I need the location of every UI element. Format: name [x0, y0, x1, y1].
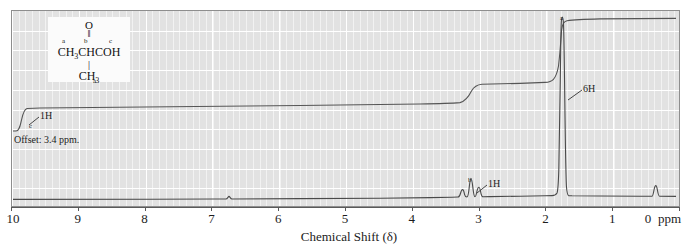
gridline-vertical [212, 11, 213, 206]
x-tick-label: 8 [141, 211, 148, 227]
gridline-vertical [279, 11, 280, 206]
main-chain-part1: CH [58, 45, 75, 59]
x-tick-label: 3 [475, 211, 482, 227]
structural-formula-inset: O ‖ a b c CH3CHCOH | CH3a [48, 17, 130, 82]
methyl-branch-formula: CH3a [48, 70, 130, 85]
gridline-vertical [413, 11, 414, 206]
x-tick-label: 10 [7, 211, 20, 227]
x-tick-label: 1 [609, 211, 616, 227]
gridline-vertical [146, 11, 147, 206]
integration-label-6h: 6H [583, 83, 595, 94]
x-axis-title: Chemical Shift (δ) [0, 229, 698, 245]
x-tick-label: 4 [409, 211, 416, 227]
nmr-spectrum-figure: O ‖ a b c CH3CHCOH | CH3a 1H c Offset: 3… [0, 0, 698, 251]
proton-letter-c: c [109, 38, 112, 45]
gridline-horizontal [12, 110, 679, 111]
gridline-horizontal [12, 188, 679, 189]
gridline-vertical [12, 11, 13, 206]
gridline-vertical [480, 11, 481, 206]
integration-label-1h-b: 1H [488, 178, 500, 189]
main-chain-part2: CHCOH [78, 45, 120, 59]
x-tick-label: 7 [208, 211, 215, 227]
proton-letter-a: a [62, 38, 65, 45]
gridline-horizontal [12, 129, 679, 130]
gridline-horizontal [12, 149, 679, 150]
peak-label-b: b [468, 176, 472, 184]
gridline-vertical [546, 11, 547, 206]
proton-letter-row: a b c [48, 38, 130, 46]
x-tick-label: 0 [645, 211, 652, 227]
x-axis-unit-label: ppm [658, 211, 681, 227]
proton-letter-b: b [84, 38, 88, 45]
gridline-vertical [613, 11, 614, 206]
branch-proton-letter-a: a [93, 78, 96, 85]
x-tick-label: 6 [275, 211, 282, 227]
x-tick-label: 2 [542, 211, 549, 227]
peak-label-c: c [29, 122, 32, 130]
peak-label-a: a [560, 14, 563, 22]
x-tick-label: 5 [342, 211, 349, 227]
gridline-vertical [346, 11, 347, 206]
integration-label-1h-c: 1H [40, 110, 52, 121]
offset-note: Offset: 3.4 ppm. [14, 134, 79, 145]
gridline-vertical [680, 11, 681, 206]
gridline-horizontal [12, 90, 679, 91]
double-bond-icon: ‖ [48, 31, 130, 38]
gridline-horizontal [12, 169, 679, 170]
x-tick-label: 9 [75, 211, 82, 227]
